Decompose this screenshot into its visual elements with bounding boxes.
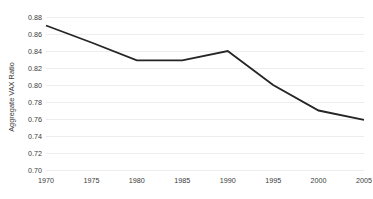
y-axis-tick-label: 0.84 <box>28 47 42 56</box>
data-series-line <box>46 26 364 120</box>
y-axis-tick-label: 0.74 <box>28 132 42 141</box>
x-axis-tick-label: 1985 <box>174 176 190 185</box>
x-axis-tick-label: 1980 <box>129 176 145 185</box>
y-axis-tick-label: 0.80 <box>28 81 42 90</box>
y-axis-tick-labels: 0.700.720.740.760.780.800.820.840.860.88 <box>28 13 42 175</box>
y-axis-tick-label: 0.72 <box>28 149 42 158</box>
x-axis-tick-label: 1990 <box>220 176 236 185</box>
y-axis-title: Aggregate VAX Ratio <box>7 62 16 132</box>
line-chart: 0.700.720.740.760.780.800.820.840.860.88… <box>0 0 373 199</box>
chart-plot-area: 0.700.720.740.760.780.800.820.840.860.88… <box>0 0 373 199</box>
x-axis-tick-label: 1970 <box>38 176 54 185</box>
x-axis-tick-label: 2000 <box>311 176 327 185</box>
x-axis-tick-label: 1975 <box>83 176 99 185</box>
x-axis-tick-label: 1995 <box>265 176 281 185</box>
x-axis-tick-label: 2005 <box>356 176 372 185</box>
y-axis-tick-label: 0.88 <box>28 13 42 22</box>
x-axis-tick-labels: 19701975198019851990199520002005 <box>38 176 372 185</box>
y-axis-tick-label: 0.76 <box>28 115 42 124</box>
y-axis-tick-label: 0.70 <box>28 166 42 175</box>
y-axis-tick-label: 0.78 <box>28 98 42 107</box>
y-axis-tick-label: 0.86 <box>28 30 42 39</box>
data-series-group <box>46 26 364 120</box>
gridlines <box>46 17 364 170</box>
y-axis-tick-label: 0.82 <box>28 64 42 73</box>
